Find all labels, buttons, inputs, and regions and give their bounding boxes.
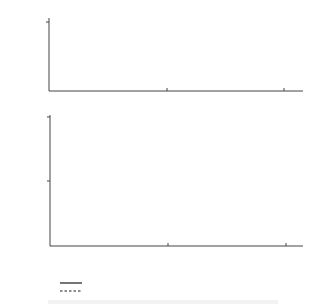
- faint-caption: [48, 300, 278, 304]
- legend: [60, 283, 82, 291]
- stress-strain-chart: [0, 0, 313, 308]
- top-panel: [0, 0, 303, 91]
- bottom-panel: [0, 0, 303, 246]
